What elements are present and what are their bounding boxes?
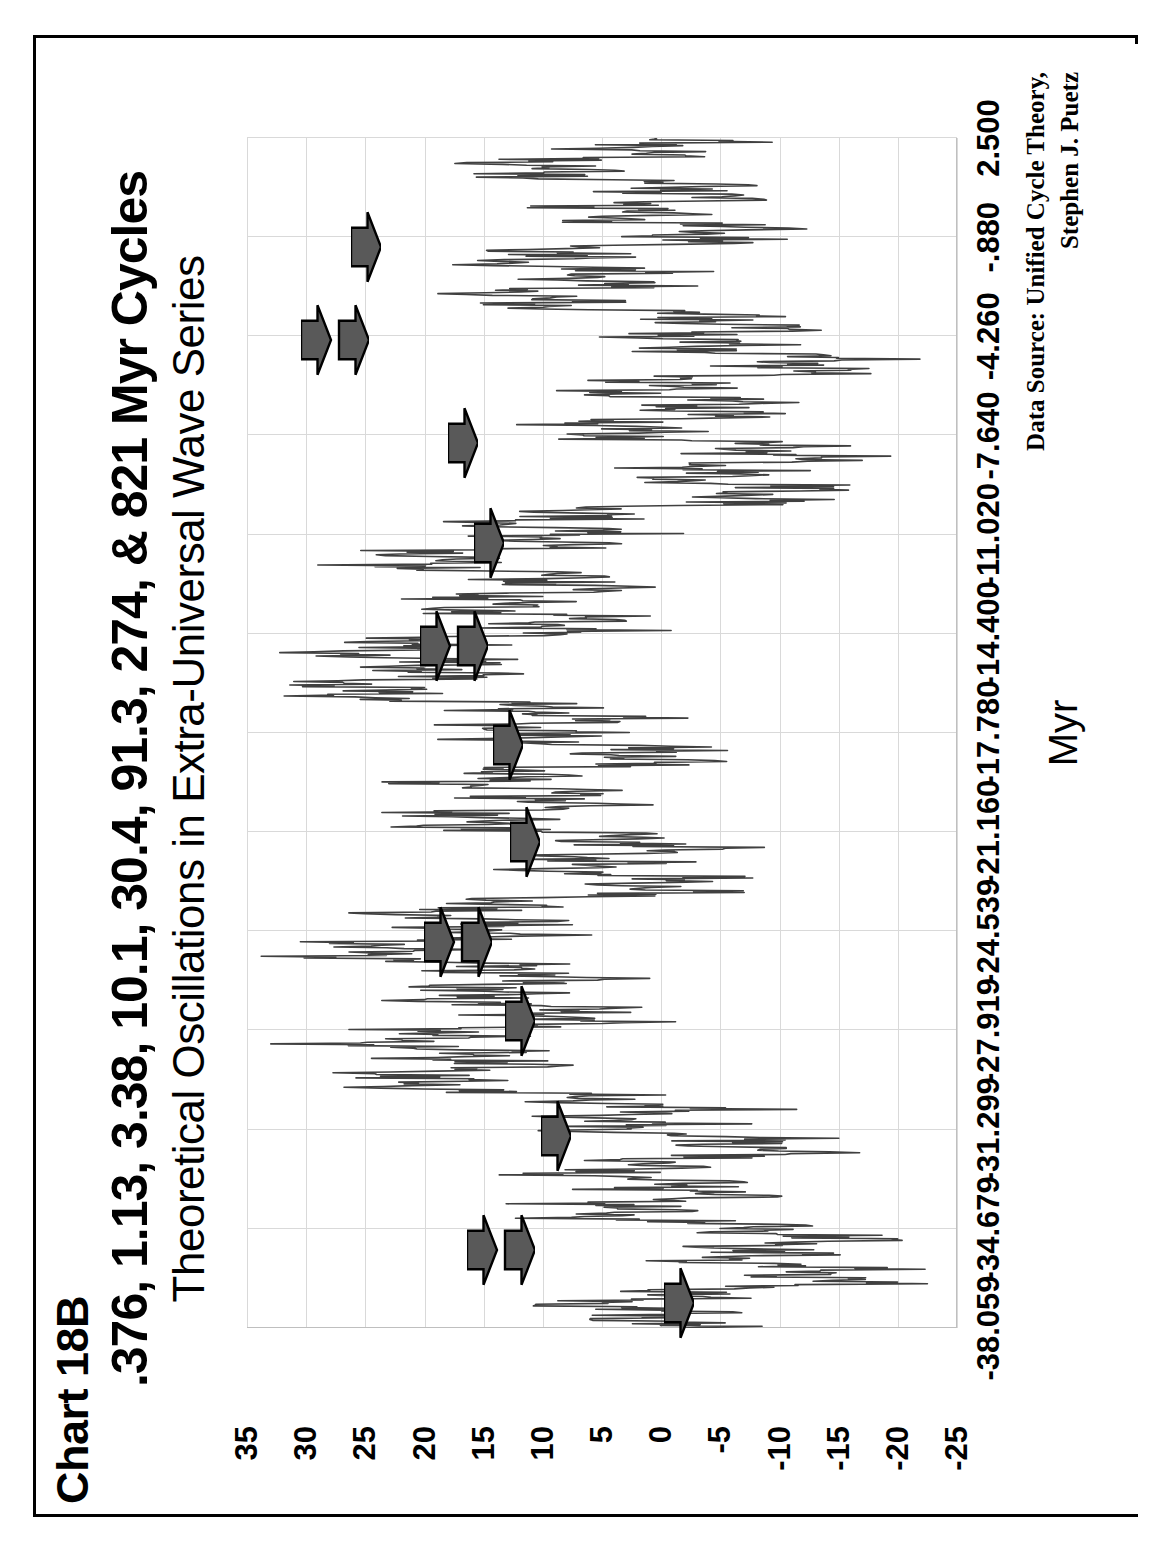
y-tick-label: 25 <box>347 1426 383 1520</box>
chart-title: .376, 1.13, 3.38, 10.1, 30.4, 91.3, 274,… <box>101 44 159 1514</box>
chart-page: Chart 18B .376, 1.13, 3.38, 10.1, 30.4, … <box>0 0 1172 1553</box>
y-tick-label: 20 <box>406 1426 442 1520</box>
y-tick-label: 0 <box>643 1426 679 1520</box>
x-tick-label: 2.500 <box>971 38 1007 238</box>
series-composite-amplitude <box>247 138 957 1328</box>
y-tick-label: -15 <box>820 1426 856 1520</box>
rotated-chart-wrapper: Chart 18B .376, 1.13, 3.38, 10.1, 30.4, … <box>36 38 1141 1520</box>
data-source-note: Data Source: Unified Cycle Theory, Steph… <box>1019 72 1087 451</box>
y-tick-label: -10 <box>761 1426 797 1520</box>
data-source-line-2: Stephen J. Puetz <box>1052 72 1086 451</box>
y-tick-label: -25 <box>939 1426 975 1520</box>
chart-number: Chart 18B <box>47 1296 99 1504</box>
y-tick-label: 30 <box>288 1426 324 1520</box>
series-line <box>261 138 927 1328</box>
y-tick-label: -20 <box>879 1426 915 1520</box>
y-tick-label: 15 <box>465 1426 501 1520</box>
data-source-line-1: Data Source: Unified Cycle Theory, <box>1019 72 1053 451</box>
y-tick-label: 10 <box>524 1426 560 1520</box>
chart-subtitle: Theoretical Oscillations in Extra-Univer… <box>164 44 214 1514</box>
plot-area <box>247 138 957 1328</box>
y-tick-label: 5 <box>584 1426 620 1520</box>
y-tick-label: 35 <box>229 1426 265 1520</box>
y-tick-label: -5 <box>702 1426 738 1520</box>
page-frame: Chart 18B .376, 1.13, 3.38, 10.1, 30.4, … <box>33 35 1138 1517</box>
chart-canvas: Chart 18B .376, 1.13, 3.38, 10.1, 30.4, … <box>39 44 1139 1514</box>
